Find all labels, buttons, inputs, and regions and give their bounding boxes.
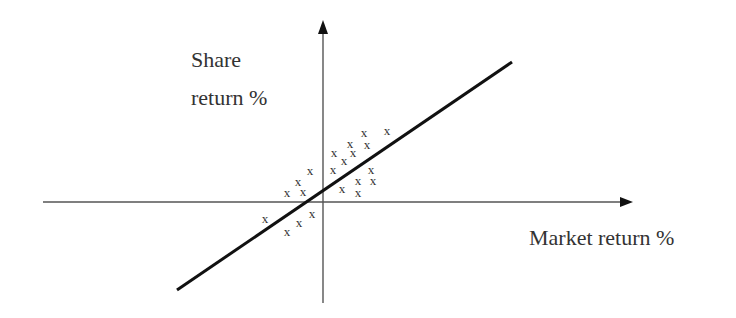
data-point-marker: x	[331, 145, 338, 160]
data-point-marker: x	[307, 163, 314, 178]
x-axis-arrow-icon	[620, 197, 633, 207]
data-point-marker: x	[330, 162, 337, 177]
scatter-points: xxxxxxxxxxxxxxxxxxxxx	[262, 123, 391, 239]
data-point-marker: x	[350, 145, 357, 160]
data-point-marker: x	[384, 123, 391, 138]
y-axis-label-line1: Share	[191, 47, 241, 72]
data-point-marker: x	[284, 224, 291, 239]
scatter-diagram: xxxxxxxxxxxxxxxxxxxxx Share return % Mar…	[0, 0, 736, 318]
data-point-marker: x	[262, 211, 269, 226]
data-point-marker: x	[300, 184, 307, 199]
data-point-marker: x	[296, 215, 303, 230]
data-point-marker: x	[339, 181, 346, 196]
y-axis-arrow-icon	[318, 20, 328, 34]
data-point-marker: x	[364, 137, 371, 152]
data-point-marker: x	[309, 206, 316, 221]
data-point-marker: x	[341, 153, 348, 168]
data-point-marker: x	[355, 185, 362, 200]
data-point-marker: x	[370, 173, 377, 188]
y-axis-label-line2: return %	[191, 85, 267, 110]
x-axis-label: Market return %	[529, 225, 674, 250]
data-point-marker: x	[284, 185, 291, 200]
